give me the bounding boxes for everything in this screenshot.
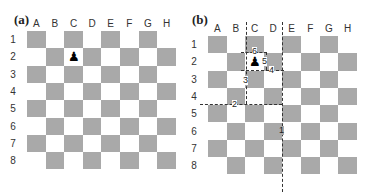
square-F4 [301, 88, 320, 105]
square-D1 [83, 31, 102, 48]
square-C5 [64, 100, 83, 117]
square-F6 [120, 118, 139, 135]
column-label-D: D [83, 19, 101, 29]
column-label-A: A [27, 19, 45, 29]
square-H4 [338, 88, 357, 105]
square-G1 [320, 36, 339, 53]
path-label-2: 2 [232, 100, 237, 109]
square-C1 [64, 31, 83, 48]
square-F7 [120, 135, 139, 152]
square-C6 [64, 118, 83, 135]
path-label-5: 5 [262, 57, 267, 66]
square-A8 [208, 157, 227, 174]
square-B6 [227, 123, 246, 140]
path-label-1: 1 [279, 126, 284, 135]
square-G3 [139, 66, 158, 83]
square-E6 [282, 123, 301, 140]
column-label-E: E [102, 19, 120, 29]
square-D8 [83, 152, 102, 169]
column-label-A: A [208, 24, 226, 34]
path-label-3: 3 [243, 76, 248, 85]
square-H2 [157, 48, 176, 65]
square-H6 [157, 118, 176, 135]
dashed-line-1 [282, 22, 283, 192]
square-A4 [27, 83, 46, 100]
square-D4 [264, 88, 283, 105]
row-label-8: 8 [4, 156, 22, 166]
square-E2 [101, 48, 120, 65]
square-B2 [46, 48, 65, 65]
square-E2 [282, 53, 301, 70]
square-D5 [83, 100, 102, 117]
square-B7 [227, 140, 246, 157]
square-B8 [227, 157, 246, 174]
square-H7 [338, 140, 357, 157]
square-H8 [157, 152, 176, 169]
square-A7 [208, 140, 227, 157]
column-label-C: C [246, 24, 264, 34]
square-D2 [83, 48, 102, 65]
column-label-E: E [283, 24, 301, 34]
square-F1 [120, 31, 139, 48]
square-G7 [139, 135, 158, 152]
square-B1 [46, 31, 65, 48]
square-G6 [139, 118, 158, 135]
square-F1 [301, 36, 320, 53]
row-label-4: 4 [4, 87, 22, 97]
square-C7 [64, 135, 83, 152]
square-D7 [264, 140, 283, 157]
path-label-6: 6 [252, 47, 257, 56]
column-label-F: F [120, 19, 138, 29]
column-label-B: B [227, 24, 245, 34]
square-A1 [27, 31, 46, 48]
square-H5 [338, 105, 357, 122]
pawn-icon: ♟ [249, 55, 261, 68]
square-B2 [227, 53, 246, 70]
square-B3 [46, 66, 65, 83]
square-G2 [320, 53, 339, 70]
square-B1 [227, 36, 246, 53]
square-A6 [27, 118, 46, 135]
square-F3 [120, 66, 139, 83]
square-B4 [46, 83, 65, 100]
square-D6 [83, 118, 102, 135]
square-A3 [27, 66, 46, 83]
square-D4 [83, 83, 102, 100]
row-label-5: 5 [4, 104, 22, 114]
pawn-icon: ♟ [68, 50, 80, 63]
square-G4 [139, 83, 158, 100]
column-label-H: H [339, 24, 357, 34]
row-label-2: 2 [185, 57, 203, 67]
square-A3 [208, 71, 227, 88]
square-E5 [101, 100, 120, 117]
square-C3 [64, 66, 83, 83]
square-C6 [245, 123, 264, 140]
square-A2 [208, 53, 227, 70]
square-C8 [245, 157, 264, 174]
row-label-3: 3 [185, 75, 203, 85]
square-F8 [120, 152, 139, 169]
square-A5 [27, 100, 46, 117]
square-E3 [282, 71, 301, 88]
column-label-F: F [301, 24, 319, 34]
square-F4 [120, 83, 139, 100]
square-A2 [27, 48, 46, 65]
square-B7 [46, 135, 65, 152]
square-B8 [46, 152, 65, 169]
square-G8 [320, 157, 339, 174]
square-F5 [301, 105, 320, 122]
square-F7 [301, 140, 320, 157]
square-C8 [64, 152, 83, 169]
square-G5 [320, 105, 339, 122]
square-G2 [139, 48, 158, 65]
square-H1 [157, 31, 176, 48]
square-H3 [157, 66, 176, 83]
row-label-1: 1 [4, 35, 22, 45]
square-E3 [101, 66, 120, 83]
square-E1 [101, 31, 120, 48]
square-G6 [320, 123, 339, 140]
column-label-G: G [139, 19, 157, 29]
path-label-4: 4 [269, 66, 274, 75]
column-label-G: G [320, 24, 338, 34]
square-D3 [83, 66, 102, 83]
